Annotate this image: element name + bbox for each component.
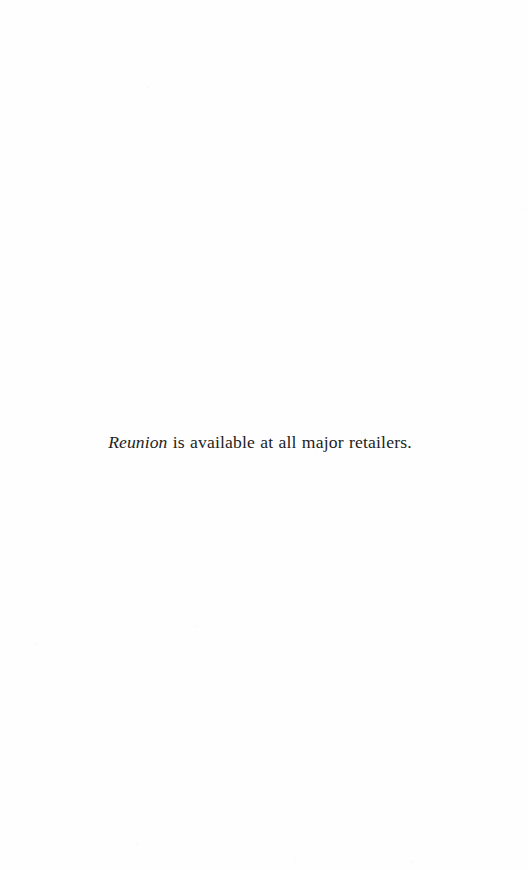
- book-title-italic: Reunion: [108, 432, 167, 452]
- availability-notice-text: is available at all major retailers.: [168, 432, 412, 452]
- scanned-page: Reunion is available at all major retail…: [0, 0, 528, 870]
- availability-notice: Reunion is available at all major retail…: [0, 431, 528, 453]
- availability-notice-line: Reunion is available at all major retail…: [108, 431, 412, 453]
